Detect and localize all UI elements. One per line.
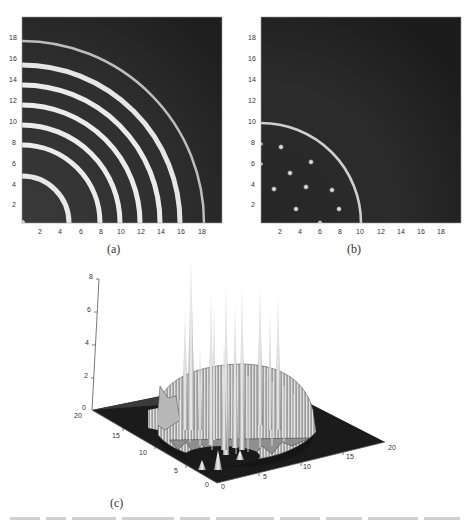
x-tick: 16 (417, 228, 425, 235)
y-tick: 20 (74, 412, 82, 419)
y-tick: 4 (251, 181, 255, 188)
x-tick: 8 (99, 228, 103, 235)
y-tick: 2 (251, 201, 255, 208)
y-tick: 18 (248, 34, 256, 41)
y-tick: 8 (12, 139, 16, 146)
x-tick: 4 (58, 228, 62, 235)
x-tick: 10 (117, 228, 125, 235)
panel-c: 8 6 4 2 0 20 15 10 5 0 0 5 10 15 20 (c) (0, 260, 471, 510)
y-tick: 12 (9, 97, 17, 104)
x-tick: 2 (278, 228, 282, 235)
surface-plot-c (0, 260, 471, 510)
y-tick: 2 (12, 201, 16, 208)
x-tick: 14 (157, 228, 165, 235)
y-tick: 0 (205, 481, 209, 488)
x-tick: 10 (303, 463, 311, 470)
x-tick: 15 (346, 453, 354, 460)
y-tick: 8 (251, 139, 255, 146)
x-tick: 20 (388, 444, 396, 451)
panel-label-a: (a) (107, 242, 120, 257)
x-tick: 4 (298, 228, 302, 235)
x-tick: 5 (263, 473, 267, 480)
z-tick: 6 (87, 306, 91, 313)
x-tick: 2 (38, 228, 42, 235)
y-tick: 5 (174, 467, 178, 474)
x-tick: 16 (177, 228, 185, 235)
x-tick: 0 (221, 483, 225, 490)
x-tick: 6 (79, 228, 83, 235)
z-tick: 8 (89, 273, 93, 280)
panel-b: 18 16 14 12 10 8 6 4 2 2 4 6 8 10 12 14 … (240, 0, 471, 260)
x-tick: 10 (356, 228, 364, 235)
x-tick: 6 (318, 228, 322, 235)
y-tick: 12 (248, 97, 256, 104)
x-tick: 18 (198, 228, 206, 235)
y-tick: 14 (248, 76, 256, 83)
x-tick: 12 (137, 228, 145, 235)
heatmap-b-image (240, 0, 471, 260)
y-tick: 10 (248, 118, 256, 125)
y-tick: 16 (9, 55, 17, 62)
panel-a: 18 16 14 12 10 8 6 4 2 2 4 6 8 10 12 14 … (0, 0, 240, 260)
z-tick: 4 (85, 339, 89, 346)
heatmap-a-image (0, 0, 240, 260)
panel-label-c: (c) (110, 496, 123, 511)
x-tick: 8 (338, 228, 342, 235)
z-tick: 2 (84, 372, 88, 379)
z-tick: 0 (82, 404, 86, 411)
panel-label-b: (b) (347, 242, 361, 257)
y-tick: 16 (248, 55, 256, 62)
y-tick: 4 (12, 181, 16, 188)
y-tick: 6 (251, 160, 255, 167)
y-tick: 14 (9, 76, 17, 83)
y-tick: 15 (112, 432, 120, 439)
x-tick: 14 (397, 228, 405, 235)
y-tick: 18 (9, 34, 17, 41)
y-tick: 10 (139, 449, 147, 456)
x-tick: 12 (377, 228, 385, 235)
figure-caption (6, 514, 466, 523)
y-tick: 10 (9, 118, 17, 125)
surface-disc (148, 364, 316, 467)
x-tick: 18 (437, 228, 445, 235)
caption-fragment (6, 514, 466, 523)
y-tick: 6 (12, 160, 16, 167)
